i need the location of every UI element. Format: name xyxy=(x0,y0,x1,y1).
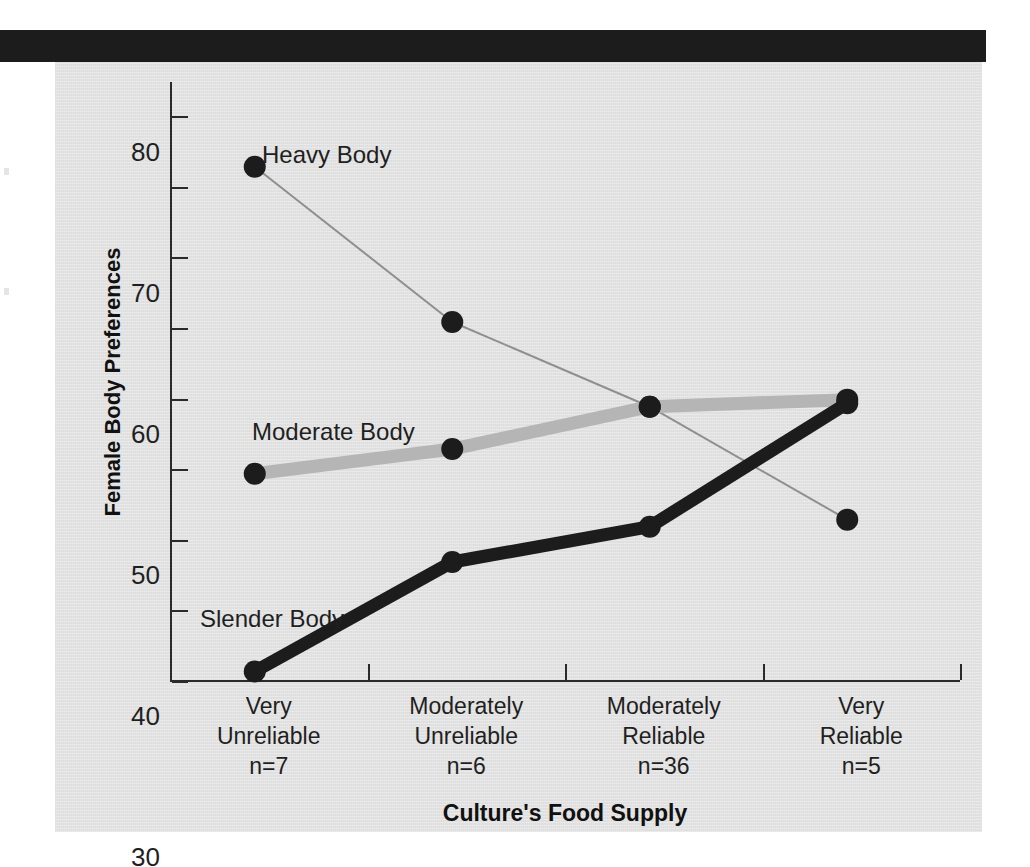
x-category-n-0: n=7 xyxy=(170,752,368,782)
data-point-slender-body-1 xyxy=(441,551,463,573)
x-category-label-3: VeryReliablen=5 xyxy=(763,692,961,782)
x-category-text-0-0: Very xyxy=(170,692,368,722)
series-label-moderate-body: Moderate Body xyxy=(252,418,415,446)
x-axis-title: Culture's Food Supply xyxy=(170,800,960,827)
data-point-slender-body-2 xyxy=(639,516,661,538)
x-category-text-2-0: Moderately xyxy=(565,692,763,722)
data-point-moderate-body-1 xyxy=(441,438,463,460)
data-point-slender-body-0 xyxy=(244,660,266,682)
y-tick-label-30: 30 xyxy=(131,842,160,867)
x-category-text-1-1: Unreliable xyxy=(368,722,566,752)
x-category-label-1: ModeratelyUnreliablen=6 xyxy=(368,692,566,782)
series-label-heavy-body: Heavy Body xyxy=(262,141,391,169)
x-category-text-1-0: Moderately xyxy=(368,692,566,722)
y-axis-title-label: Female Body Preferences xyxy=(100,247,126,516)
y-tick-label-80: 80 xyxy=(131,136,160,167)
y-tick-label-60: 60 xyxy=(131,418,160,449)
page-edge-artifact-top xyxy=(4,168,9,175)
figure-page: Female Body Preferences 0102030405060708… xyxy=(0,0,1030,867)
x-category-n-2: n=36 xyxy=(565,752,763,782)
y-axis-title: Female Body Preferences xyxy=(98,82,128,682)
data-point-slender-body-3 xyxy=(836,392,858,414)
x-category-n-3: n=5 xyxy=(763,752,961,782)
x-category-label-2: ModeratelyReliablen=36 xyxy=(565,692,763,782)
x-category-n-1: n=6 xyxy=(368,752,566,782)
data-point-heavy-body-1 xyxy=(441,311,463,333)
x-category-text-3-0: Very xyxy=(763,692,961,722)
page-edge-artifact-bottom xyxy=(4,288,9,295)
x-category-text-0-1: Unreliable xyxy=(170,722,368,752)
data-point-heavy-body-3 xyxy=(836,509,858,531)
y-tick-label-40: 40 xyxy=(131,701,160,732)
x-category-label-0: VeryUnreliablen=7 xyxy=(170,692,368,782)
y-tick-label-70: 70 xyxy=(131,277,160,308)
series-label-slender-body: Slender Body xyxy=(200,605,344,633)
top-black-banner xyxy=(0,30,986,62)
data-point-moderate-body-0 xyxy=(244,463,266,485)
data-series-layer xyxy=(170,82,982,682)
x-category-text-3-1: Reliable xyxy=(763,722,961,752)
data-point-moderate-body-2 xyxy=(639,396,661,418)
x-category-text-2-1: Reliable xyxy=(565,722,763,752)
y-tick-label-50: 50 xyxy=(131,560,160,591)
